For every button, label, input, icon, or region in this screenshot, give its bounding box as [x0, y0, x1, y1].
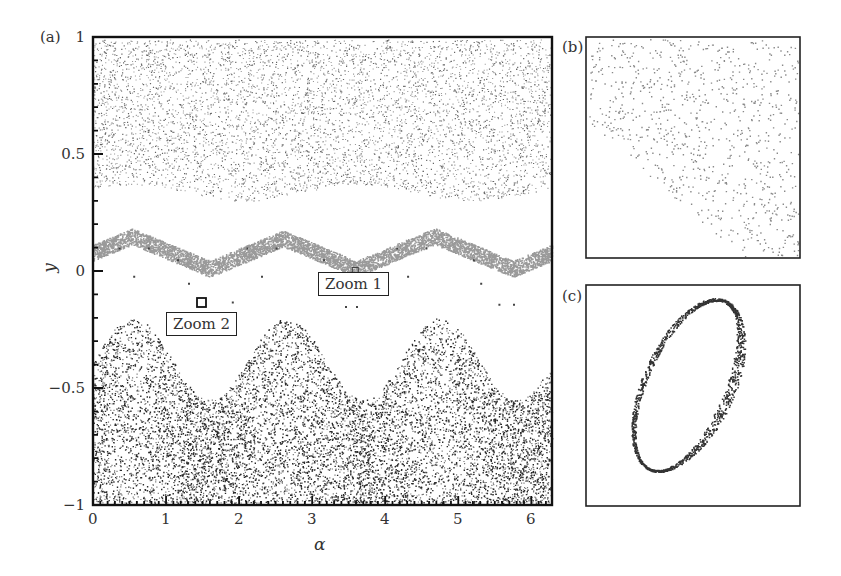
y-tick-neg1: −1: [63, 496, 85, 514]
panel-label-c: (c): [562, 287, 582, 305]
y-tick-1: 1: [75, 28, 85, 46]
x-tick-0: 0: [88, 510, 98, 528]
x-tick-6: 6: [526, 510, 536, 528]
zoom1-label: Zoom 1: [318, 272, 389, 296]
x-axis-title: α: [314, 534, 325, 554]
y-tick-neg0.5: −0.5: [49, 379, 85, 397]
zoom2-marker-box: [197, 298, 206, 307]
y-tick-0: 0: [75, 262, 85, 280]
x-tick-5: 5: [453, 510, 463, 528]
zoom1-scatter-points: [589, 39, 799, 257]
zoom2-label: Zoom 2: [166, 312, 237, 336]
zoom1-frame: [586, 37, 800, 258]
x-tick-3: 3: [307, 510, 317, 528]
zoom2-frame: [586, 285, 800, 506]
zoom2-scatter-points: [631, 298, 746, 473]
poincare-section-plot: [0, 0, 841, 576]
panel-label-a: (a): [40, 28, 61, 46]
y-tick-0.5: 0.5: [61, 145, 85, 163]
x-tick-1: 1: [161, 510, 171, 528]
y-axis-title: y: [39, 263, 59, 273]
x-tick-4: 4: [380, 510, 390, 528]
panel-label-b: (b): [562, 38, 583, 56]
x-tick-2: 2: [234, 510, 244, 528]
